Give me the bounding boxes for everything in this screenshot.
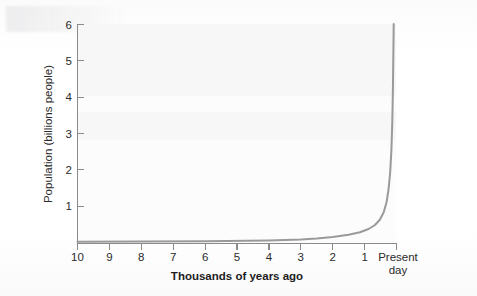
y-axis-title: Population (billions people) (42, 65, 54, 203)
x-tick-label-present-day-line2: day (389, 264, 408, 276)
x-axis-ticks (78, 244, 397, 250)
x-tick-label-5: 5 (234, 251, 240, 263)
x-tick-label-4: 4 (266, 251, 273, 263)
x-tick-label-7: 7 (170, 251, 176, 263)
population-growth-chart: 6 5 4 3 2 1 10 (0, 0, 477, 296)
x-tick-label-2: 2 (329, 251, 335, 263)
scan-band-mid (77, 112, 396, 140)
x-tick-label-10: 10 (71, 251, 84, 263)
x-tick-label-present-day-line1: Present (378, 251, 418, 263)
x-tick-label-8: 8 (138, 251, 144, 263)
x-tick-label-6: 6 (202, 251, 208, 263)
x-tick-label-3: 3 (298, 251, 304, 263)
scan-band-upper (77, 24, 396, 96)
y-tick-label-1: 1 (66, 200, 72, 212)
y-tick-label-3: 3 (66, 128, 72, 140)
y-tick-label-4: 4 (66, 91, 73, 103)
y-axis-tick-labels: 6 5 4 3 2 1 (66, 19, 73, 213)
chart-plot-area: 6 5 4 3 2 1 10 (0, 0, 477, 296)
figure-canvas: 6 5 4 3 2 1 10 (0, 0, 477, 296)
x-tick-label-9: 9 (106, 251, 112, 263)
y-tick-label-6: 6 (66, 19, 72, 31)
x-tick-label-1: 1 (361, 251, 367, 263)
y-tick-label-5: 5 (66, 55, 72, 67)
y-tick-label-2: 2 (66, 164, 72, 176)
x-axis-title: Thousands of years ago (171, 270, 303, 282)
